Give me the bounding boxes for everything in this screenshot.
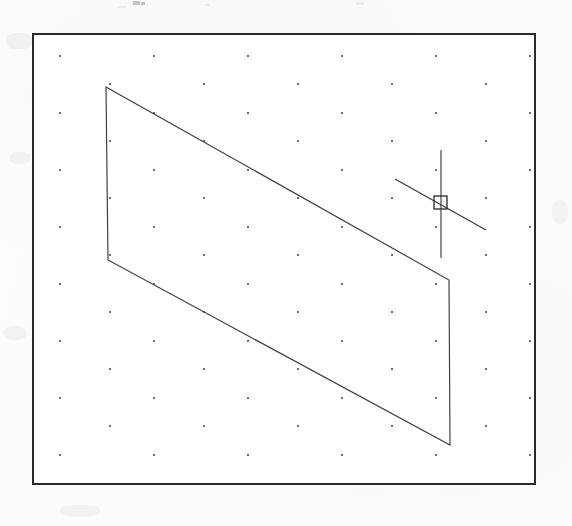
grid-dot xyxy=(529,454,531,456)
snap-grid-dots xyxy=(59,55,531,456)
grid-dot xyxy=(529,340,531,342)
grid-dot xyxy=(247,112,249,114)
grid-dot xyxy=(203,368,205,370)
grid-dot xyxy=(529,55,531,57)
grid-dot xyxy=(153,169,155,171)
grid-dot xyxy=(435,55,437,57)
grid-dot xyxy=(391,140,393,142)
grid-dot xyxy=(247,169,249,171)
grid-dot xyxy=(59,55,61,57)
grid-dot xyxy=(341,169,343,171)
grid-dot xyxy=(203,83,205,85)
grid-dot xyxy=(247,226,249,228)
grid-dot xyxy=(109,254,111,256)
grid-dot xyxy=(203,425,205,427)
grid-dot xyxy=(391,83,393,85)
grid-dot xyxy=(435,169,437,171)
grid-dot xyxy=(59,283,61,285)
grid-dot xyxy=(435,340,437,342)
grid-dot xyxy=(109,197,111,199)
grid-dot xyxy=(529,226,531,228)
grid-dot xyxy=(59,454,61,456)
grid-dot xyxy=(341,340,343,342)
grid-dot xyxy=(109,311,111,313)
grid-dot xyxy=(247,55,249,57)
grid-dot xyxy=(109,368,111,370)
grid-dot xyxy=(297,254,299,256)
grid-dot xyxy=(297,425,299,427)
grid-dot xyxy=(529,283,531,285)
grid-dot xyxy=(153,340,155,342)
grid-dot xyxy=(529,169,531,171)
grid-dot xyxy=(247,283,249,285)
grid-dot xyxy=(153,454,155,456)
grid-dot xyxy=(203,197,205,199)
grid-dot xyxy=(391,368,393,370)
drawing-canvas[interactable] xyxy=(34,35,534,483)
isometric-parallelogram-face[interactable] xyxy=(106,87,450,445)
grid-dot xyxy=(297,368,299,370)
grid-dot xyxy=(485,311,487,313)
grid-dot xyxy=(153,226,155,228)
grid-dot xyxy=(391,197,393,199)
grid-dot xyxy=(341,283,343,285)
grid-dot xyxy=(247,340,249,342)
grid-dot xyxy=(59,112,61,114)
grid-dot xyxy=(485,140,487,142)
grid-dot xyxy=(485,254,487,256)
grid-dot xyxy=(485,368,487,370)
grid-dot xyxy=(297,83,299,85)
grid-dot xyxy=(341,112,343,114)
grid-dot xyxy=(391,425,393,427)
grid-dot xyxy=(297,197,299,199)
grid-dot xyxy=(341,226,343,228)
grid-dot xyxy=(529,112,531,114)
grid-dot xyxy=(59,397,61,399)
grid-dot xyxy=(247,397,249,399)
grid-dot xyxy=(203,254,205,256)
grid-dot xyxy=(341,454,343,456)
grid-dot xyxy=(341,397,343,399)
grid-dot xyxy=(247,454,249,456)
grid-dot xyxy=(391,311,393,313)
grid-dot xyxy=(485,83,487,85)
grid-dot xyxy=(485,197,487,199)
grid-dot xyxy=(297,140,299,142)
grid-dot xyxy=(109,140,111,142)
grid-dot xyxy=(153,397,155,399)
grid-dot xyxy=(59,340,61,342)
grid-dot xyxy=(153,55,155,57)
grid-dot xyxy=(529,397,531,399)
grid-dot xyxy=(435,226,437,228)
grid-dot xyxy=(109,83,111,85)
grid-dot xyxy=(59,226,61,228)
grid-dot xyxy=(435,454,437,456)
grid-dot xyxy=(435,283,437,285)
grid-dot xyxy=(341,55,343,57)
cad-drawing-panel[interactable] xyxy=(32,33,536,485)
grid-dot xyxy=(59,169,61,171)
grid-dot xyxy=(435,112,437,114)
grid-dot xyxy=(297,311,299,313)
drawn-geometry[interactable] xyxy=(106,87,450,445)
crosshair-cursor xyxy=(395,150,486,258)
grid-dot xyxy=(391,254,393,256)
grid-dot xyxy=(485,425,487,427)
grid-dot xyxy=(435,397,437,399)
grid-dot xyxy=(109,425,111,427)
